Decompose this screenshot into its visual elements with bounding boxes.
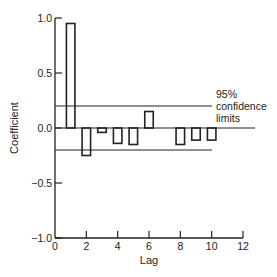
y-tick-label: 0.5 bbox=[37, 67, 52, 79]
annotation-line1: 95% bbox=[216, 88, 237, 100]
y-tick-label: 1.0 bbox=[37, 12, 52, 24]
y-tick-label: 0.0 bbox=[37, 122, 52, 134]
x-tick-label: 10 bbox=[206, 240, 218, 252]
acf-chart: 1.00.50.0−0.5−1.0024681012 Coefficient L… bbox=[0, 0, 277, 277]
y-tick-label: −0.5 bbox=[31, 177, 52, 189]
y-axis-label: Coefficient bbox=[8, 102, 20, 154]
bar-lag-10 bbox=[207, 128, 216, 140]
bar-lag-6 bbox=[145, 112, 154, 129]
bars-group bbox=[66, 24, 216, 156]
annotation-line2: confidence bbox=[216, 100, 267, 112]
bar-lag-8 bbox=[176, 128, 185, 145]
x-tick-label: 4 bbox=[115, 240, 121, 252]
bar-lag-3 bbox=[98, 128, 107, 132]
bar-lag-9 bbox=[192, 128, 201, 140]
x-tick-label: 12 bbox=[237, 240, 249, 252]
x-tick-label: 8 bbox=[177, 240, 183, 252]
x-tick-label: 6 bbox=[146, 240, 152, 252]
bar-lag-4 bbox=[113, 128, 122, 143]
bar-lag-2 bbox=[82, 128, 91, 156]
bar-lag-1 bbox=[66, 24, 75, 129]
bar-lag-5 bbox=[129, 128, 138, 145]
x-tick-label: 2 bbox=[83, 240, 89, 252]
annotation-line3: limits bbox=[216, 112, 240, 124]
x-axis-label: Lag bbox=[140, 254, 158, 266]
x-tick-label: 0 bbox=[52, 240, 58, 252]
y-tick-label: −1.0 bbox=[31, 232, 52, 244]
axes-group: 1.00.50.0−0.5−1.0024681012 bbox=[31, 12, 255, 252]
